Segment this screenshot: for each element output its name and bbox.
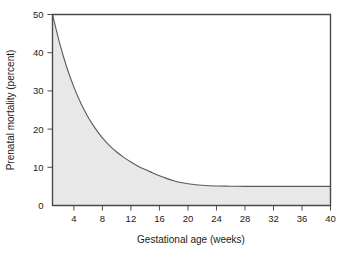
x-tick-label: 24: [211, 213, 222, 224]
y-axis-title: Prenatal mortality (percent): [5, 50, 16, 171]
y-tick-label: 50: [33, 9, 44, 20]
y-tick-label: 30: [33, 85, 44, 96]
figure-container: 481216202428323640 01020304050 Gestation…: [0, 0, 346, 257]
x-tick-label: 20: [183, 213, 194, 224]
y-tick-label: 0: [38, 200, 43, 211]
prenatal-mortality-chart: 481216202428323640 01020304050 Gestation…: [0, 0, 346, 257]
x-tick-label: 16: [154, 213, 165, 224]
x-tick-label: 36: [297, 213, 308, 224]
x-tick-label: 40: [325, 213, 336, 224]
x-tick-label: 28: [240, 213, 251, 224]
y-tick-label: 40: [33, 47, 44, 58]
x-tick-label: 32: [268, 213, 279, 224]
y-tick-label: 20: [33, 124, 44, 135]
y-tick-label: 10: [33, 162, 44, 173]
x-axis-title: Gestational age (weeks): [137, 234, 245, 245]
x-tick-label: 8: [100, 213, 105, 224]
x-tick-label: 12: [126, 213, 137, 224]
x-tick-label: 4: [71, 213, 76, 224]
